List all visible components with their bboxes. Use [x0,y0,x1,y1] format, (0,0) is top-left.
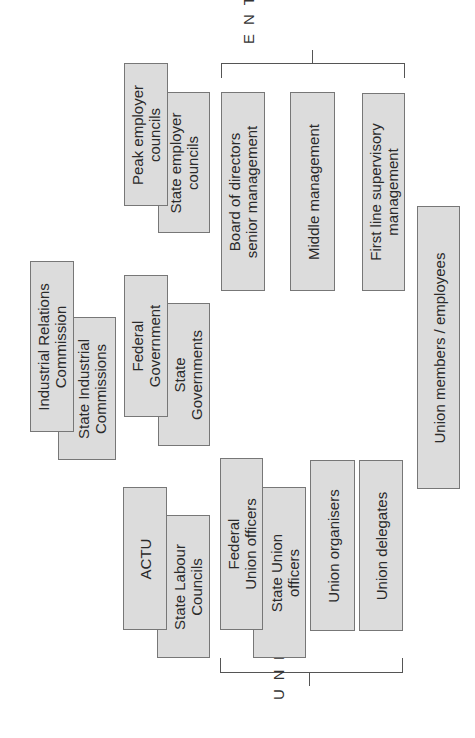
box-federal-union-officers: Federal Union officers [220,458,263,630]
enterprise-bracket-tick [312,50,313,63]
label-union-delegates: Union delegates [373,491,390,599]
box-peak-employer-councils: Peak employer councils [124,63,168,206]
label-first-line-supervisory: First line supervisory management [367,123,401,261]
label-federal-government: Federal Government [129,305,163,388]
enterprise-bracket [221,63,405,78]
label-state-employer-councils: State employer councils [167,112,201,213]
label-industrial-relations-commission: Industrial Relations Commission [35,283,69,411]
enterprise-label: ENTERPRISE [240,0,257,44]
box-union-members-employees: Union members / employees [417,206,460,489]
box-actu: ACTU [123,487,167,630]
union-bracket-tick [309,672,310,686]
box-middle-management: Middle management [290,92,335,291]
label-state-governments: State Governments [171,329,205,419]
label-union-organisers: Union organisers [324,489,341,602]
label-middle-management: Middle management [304,124,321,260]
label-state-industrial-commissions: State Industrial Commissions [75,338,109,438]
box-federal-government: Federal Government [124,275,168,417]
box-union-delegates: Union delegates [359,460,403,631]
box-board-of-directors: Board of directors senior management [221,92,265,291]
label-state-labour-councils: State Labour Councils [171,544,205,630]
label-peak-employer-councils: Peak employer councils [129,84,163,184]
label-union-members-employees: Union members / employees [430,252,447,443]
union-bracket [220,658,403,673]
label-actu: ACTU [137,538,154,579]
box-first-line-supervisory: First line supervisory management [362,93,405,291]
box-industrial-relations-commission: Industrial Relations Commission [30,261,74,432]
label-state-union-officers: State Union officers [268,533,302,611]
label-board-of-directors: Board of directors senior management [226,125,260,258]
label-federal-union-officers: Federal Union officers [225,498,259,589]
box-union-organisers: Union organisers [310,460,355,631]
